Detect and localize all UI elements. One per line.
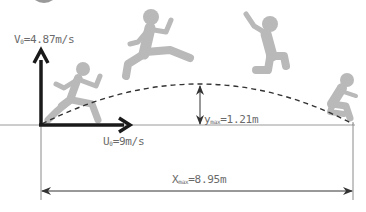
ymax-subscript: max: [210, 118, 220, 125]
v0-label: V0=4.87m/s: [14, 33, 74, 46]
ymax-label: ymax=1.21m: [204, 113, 258, 126]
jumper-peak-figure: [246, 14, 286, 70]
xmax-subscript: max: [178, 178, 188, 185]
long-jump-diagram: V0=4.87m/s U0=9m/s ymax=1.21m Xmax=8.95m: [0, 0, 366, 212]
xmax-value: =8.95m: [188, 173, 226, 186]
partial-circle-decoration: [32, 0, 56, 3]
u0-value: =9m/s: [113, 135, 145, 148]
jumper-rising-figure: [126, 9, 190, 76]
u0-label: U0=9m/s: [103, 135, 144, 148]
jumper-landing-figure: [330, 73, 356, 118]
xmax-label: Xmax=8.95m: [172, 173, 226, 186]
v0-value: =4.87m/s: [24, 33, 75, 46]
runner-takeoff-figure: [48, 62, 100, 120]
v0-arrow: [34, 50, 48, 126]
ymax-value: =1.21m: [220, 113, 258, 126]
